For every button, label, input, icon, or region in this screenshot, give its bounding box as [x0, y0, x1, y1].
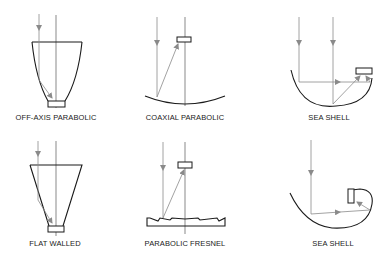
label-parabolic-fresnel: PARABOLIC FRESNEL	[145, 239, 226, 248]
reflector-outline	[32, 42, 82, 101]
sensor	[348, 189, 354, 203]
panel-sea-shell-1	[291, 17, 372, 106]
reflected-ray	[38, 200, 52, 223]
sensor	[48, 101, 65, 107]
panel-flat-walled	[30, 141, 82, 236]
label-sea-shell-2: SEA SHELL	[312, 239, 353, 248]
panel-off-axis-parabolic	[32, 14, 82, 108]
reflected-ray	[157, 44, 178, 97]
reflected-ray	[357, 202, 370, 210]
panel-parabolic-fresnel	[147, 142, 225, 234]
label-flat-walled: FLAT WALLED	[29, 239, 80, 248]
label-coaxial-parabolic: COAXIAL PARABOLIC	[146, 113, 224, 122]
panel-coaxial-parabolic	[145, 17, 225, 106]
label-sea-shell-1: SEA SHELL	[308, 113, 349, 122]
horizontal-ray	[340, 210, 370, 212]
panel-sea-shell-2	[290, 140, 372, 228]
label-off-axis-parabolic: OFF-AXIS PARABOLIC	[16, 113, 97, 122]
reflected-ray	[333, 76, 360, 104]
fresnel-reflector	[147, 218, 225, 226]
reflected-ray	[163, 170, 184, 218]
reflector-outline	[290, 189, 372, 228]
reflector-outline	[291, 70, 372, 106]
sensor	[178, 162, 192, 168]
horizontal-ray	[311, 212, 340, 214]
sensor	[356, 68, 372, 74]
sensor	[48, 226, 64, 232]
reflected-ray	[366, 76, 370, 82]
reflector-diagram: OFF-AXIS PARABOLIC COAXIAL PARABOLIC SEA…	[0, 0, 385, 258]
sensor	[177, 37, 191, 42]
